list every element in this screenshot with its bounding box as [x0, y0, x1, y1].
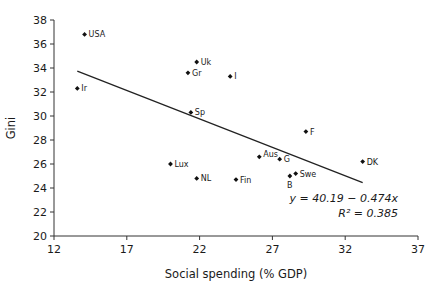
data-point: Lux	[168, 160, 189, 169]
x-tick-label: 17	[120, 243, 134, 256]
x-tick-label: 27	[265, 243, 279, 256]
diamond-marker-icon	[287, 174, 292, 179]
data-point: Fin	[234, 176, 252, 185]
point-label: Swe	[300, 170, 317, 179]
y-tick-label: 30	[33, 110, 47, 123]
y-tick-label: 38	[33, 14, 47, 27]
data-point: F	[303, 128, 314, 137]
point-label: F	[310, 128, 315, 137]
diamond-marker-icon	[75, 86, 80, 91]
y-tick-label: 34	[33, 62, 47, 75]
regression-line	[77, 71, 362, 182]
data-point: G	[277, 155, 290, 164]
point-label: NL	[201, 174, 212, 183]
diamond-marker-icon	[188, 110, 193, 115]
x-tick-label: 37	[411, 243, 425, 256]
y-tick-label: 36	[33, 38, 47, 51]
point-label: Fin	[240, 176, 251, 185]
regression-equation: y = 40.19 − 0.474x R² = 0.385	[289, 192, 399, 220]
y-tick-label: 26	[33, 158, 47, 171]
trendline	[77, 71, 362, 182]
diamond-marker-icon	[293, 171, 298, 176]
diamond-marker-icon	[186, 70, 191, 75]
y-tick-label: 20	[33, 230, 47, 243]
point-label: Uk	[201, 58, 212, 67]
diamond-marker-icon	[303, 129, 308, 134]
y-tick-label: 28	[33, 134, 47, 147]
diamond-marker-icon	[234, 177, 239, 182]
data-points: USAIrUkGrISpFLuxNLFinAusGBSweDK	[75, 30, 379, 190]
diamond-marker-icon	[168, 162, 173, 167]
point-label: Ir	[81, 84, 87, 93]
data-point: Gr	[186, 69, 203, 78]
point-label: USA	[89, 30, 106, 39]
data-point: USA	[82, 30, 105, 39]
y-tick-label: 24	[33, 182, 47, 195]
point-label: B	[287, 181, 293, 190]
data-point: Aus	[257, 150, 278, 159]
point-label: DK	[367, 158, 379, 167]
diamond-marker-icon	[360, 159, 365, 164]
scatter-chart: 20222426283032343638121722273237 USAIrUk…	[0, 0, 440, 286]
diamond-marker-icon	[257, 154, 262, 159]
x-tick-label: 32	[338, 243, 352, 256]
data-point: Uk	[194, 58, 211, 67]
point-label: Sp	[195, 108, 205, 117]
point-label: I	[234, 72, 236, 81]
diamond-marker-icon	[82, 32, 87, 37]
y-axis-label: Gini	[4, 117, 18, 140]
x-axis-label: Social spending (% GDP)	[165, 267, 307, 281]
y-tick-label: 22	[33, 206, 47, 219]
data-point: DK	[360, 158, 379, 167]
x-tick-label: 22	[193, 243, 207, 256]
diamond-marker-icon	[194, 60, 199, 65]
diamond-marker-icon	[194, 176, 199, 181]
r-squared-text: R² = 0.385	[338, 207, 398, 220]
data-point: B	[287, 174, 293, 190]
data-point: Ir	[75, 84, 88, 93]
x-tick-label: 12	[47, 243, 61, 256]
data-point: NL	[194, 174, 211, 183]
point-label: Lux	[174, 160, 188, 169]
axis-labels: Social spending (% GDP) Gini	[4, 117, 307, 281]
y-tick-label: 32	[33, 86, 47, 99]
data-point: Swe	[293, 170, 316, 179]
point-label: G	[284, 155, 290, 164]
diamond-marker-icon	[228, 74, 233, 79]
data-point: I	[228, 72, 237, 81]
point-label: Aus	[263, 150, 278, 159]
equation-text: y = 40.19 − 0.474x	[289, 192, 399, 205]
point-label: Gr	[192, 69, 202, 78]
